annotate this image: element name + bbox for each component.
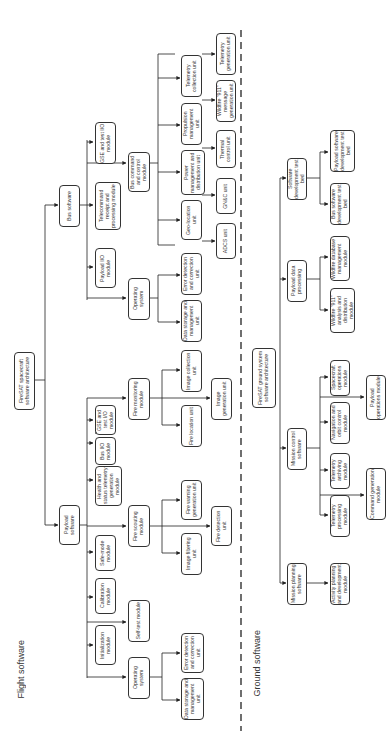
bus-sw-testbed-node: Bus software development test bed (330, 183, 350, 225)
wildfire-911-analysis-node: Wildfire "911" analysis and distribution… (330, 288, 355, 333)
payload-ops-node: Payload operations module (366, 375, 386, 420)
gnc-node: GN&C unit (216, 178, 236, 214)
gse-test-io-node: GSE and test I/O module (95, 122, 116, 164)
mission-planning-node: Mission planning software (287, 563, 307, 605)
image-filtering-node: Image filtering unit (181, 533, 202, 575)
payload-os-error-detection-node: Error detection and correction unit (181, 633, 204, 673)
fire-detection-node: Fire detection unit (211, 506, 232, 546)
thermal-node: Thermal control unit (216, 130, 236, 168)
ground-software-label: Ground software (252, 630, 262, 697)
telecommand-node: Telecommand receipt and processing modul… (95, 182, 121, 230)
telemetry-archiving-node: Telemetry archiving module (330, 453, 350, 489)
ground-root-node: FireSAT ground system software architect… (252, 348, 276, 408)
initialization-node: Initialization module (95, 625, 116, 665)
payload-data-node: Payload data processing (287, 260, 307, 302)
calibration-node: Calibration module (95, 578, 116, 614)
bus-operating-system-node: Operating system (128, 278, 150, 320)
fire-monitoring-node: Fire monitoring module (128, 378, 150, 420)
health-status-node: Health and status telemetry generation m… (95, 466, 122, 506)
mission-control-node: Mission control software (287, 428, 307, 470)
payload-sw-testbed-node: Payload software development test bed (330, 130, 355, 172)
geo-location-node: Geo-location unit (181, 200, 202, 240)
fire-scouting-node: Fire scouting module (128, 505, 150, 547)
spacer (95, 432, 97, 434)
power-node: Power management and distribution unit (181, 150, 205, 195)
payload-io-node: Payload I/O module (95, 248, 116, 288)
payload-gse-test-io-node: GSE and test I/O module (95, 405, 116, 435)
spacecraft-ops-node: Spacecraft operations module (330, 360, 350, 396)
architecture-diagram: Flight software Ground software FireSAT … (0, 0, 390, 731)
payload-operating-system-node: Operating system (128, 657, 150, 699)
bus-os-error-detection-node: Error detection and correction unit (181, 253, 202, 295)
image-collection-node: Image collection unit (181, 350, 202, 392)
safe-mode-node: Safe-mode module (95, 535, 116, 571)
telemetry-generation-node: Telemetry generation unit (216, 33, 236, 75)
flight-root-node: FireSAT spacecraft software architecture (14, 352, 35, 410)
wildfire-911-message-node: Wildfire "911" message generation unit (216, 80, 236, 122)
payload-os-data-storage-node: Data storage and management unit (181, 678, 204, 720)
activity-planning-node: Activity planning and development module (330, 563, 350, 605)
flight-software-label: Flight software (16, 640, 26, 699)
self-test-node: Self-test module (128, 600, 150, 642)
image-generation-node: Image generation unit (211, 378, 232, 420)
bus-io-node: Bus I/O module (95, 437, 116, 465)
bus-os-data-storage-node: Data storage and management unit (181, 300, 202, 342)
fire-location-node: Fire location unit (181, 405, 202, 447)
payload-software-node: Payload software (59, 505, 80, 545)
wildfire-db-node: Wildfire database management module (330, 236, 350, 281)
bus-command-node: Bus command and control module (128, 152, 150, 192)
propulsion-node: Propulsion management unit (181, 103, 202, 145)
command-generation-node: Command generation module (366, 468, 386, 520)
adcs-node: ADCS unit (216, 223, 236, 259)
fire-warning-node: Fire warning generation unit (181, 480, 202, 520)
sw-dev-testbed-node: Software development test bed (287, 158, 307, 200)
telemetry-processing-node: Telemetry processing module (330, 495, 350, 537)
navigation-orbit-node: Navigation and orbit control module (330, 402, 350, 444)
bus-software-node: Bus software (59, 185, 80, 227)
telemetry-collection-node: Telemetry collection unit (181, 55, 202, 97)
